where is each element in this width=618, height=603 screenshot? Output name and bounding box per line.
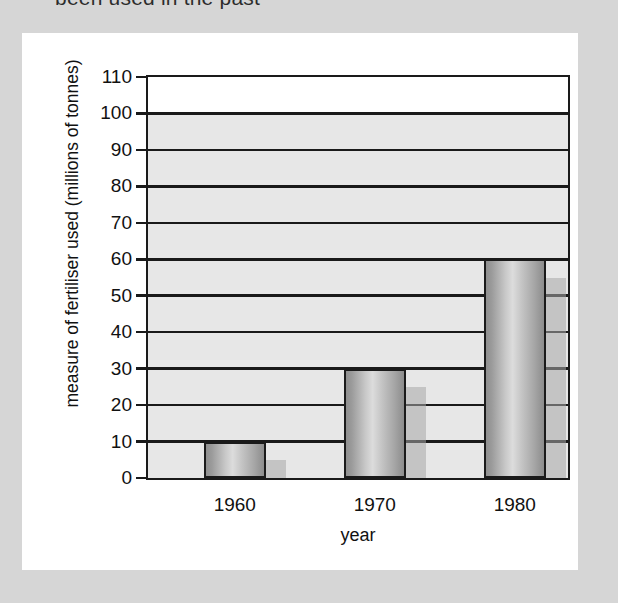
bar-shadow-1960: [266, 460, 286, 478]
y-axis-tick: [136, 222, 148, 225]
y-axis-tick-label: 70: [111, 211, 132, 233]
y-axis-tick-label: 40: [111, 321, 132, 343]
chart-card: measure of fertiliser used (millions of …: [22, 33, 578, 570]
bar-1980: [484, 259, 546, 478]
gridline: [148, 112, 568, 115]
cut-off-caption: been used in the past: [0, 0, 618, 12]
bar-chart: measure of fertiliser used (millions of …: [22, 33, 578, 570]
y-axis-tick: [136, 149, 148, 152]
y-axis-tick: [136, 76, 148, 79]
y-axis-tick: [136, 331, 148, 334]
y-axis-tick-label: 80: [111, 175, 132, 197]
y-axis-tick-label: 30: [111, 357, 132, 379]
bar-1960: [204, 442, 266, 478]
y-axis-tick-label: 20: [111, 394, 132, 416]
y-axis-tick-label: 0: [121, 467, 132, 489]
x-axis-tick-label-1960: 1960: [214, 494, 256, 516]
x-axis-tick-label-1980: 1980: [494, 494, 536, 516]
y-axis-tick: [136, 294, 148, 297]
plot-band: [148, 150, 568, 186]
y-axis-tick-label: 100: [100, 102, 132, 124]
y-axis-tick: [136, 440, 148, 443]
y-axis-tick: [136, 185, 148, 188]
y-axis-tick-label: 90: [111, 138, 132, 160]
y-axis-tick-label: 50: [111, 284, 132, 306]
bar-1970: [344, 369, 406, 478]
y-axis-tick-label: 110: [102, 66, 132, 88]
plot-band: [148, 113, 568, 149]
y-axis-tick: [136, 112, 148, 115]
y-axis-tick: [136, 367, 148, 370]
plot-band: [148, 186, 568, 222]
plot-band: [148, 223, 568, 259]
gridline: [148, 149, 568, 152]
plot-area: 1101009080706050403020100196019701980: [146, 75, 570, 480]
y-axis-tick: [136, 477, 148, 480]
x-axis-title: year: [146, 525, 570, 546]
gridline: [148, 185, 568, 188]
bar-shadow-1980: [546, 278, 566, 479]
x-axis-tick-label-1970: 1970: [354, 494, 396, 516]
y-axis-tick-label: 10: [111, 430, 132, 452]
gridline: [148, 222, 568, 225]
y-axis-title: measure of fertiliser used (millions of …: [62, 24, 83, 444]
y-axis-tick: [136, 404, 148, 407]
y-axis-tick: [136, 258, 148, 261]
y-axis-tick-label: 60: [111, 248, 132, 270]
bar-shadow-1970: [406, 387, 426, 478]
